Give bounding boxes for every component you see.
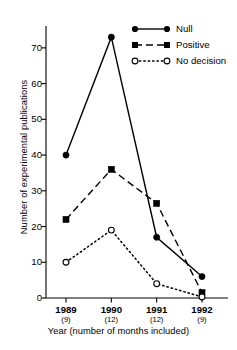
legend-label: Positive xyxy=(171,39,210,51)
legend-item-null: Null xyxy=(131,21,237,37)
legend-swatch xyxy=(131,22,171,36)
line-chart: Number of experimental publications 0102… xyxy=(0,0,237,350)
legend-swatch xyxy=(131,54,171,68)
x-tick-label-months: (9) xyxy=(174,315,230,325)
x-tick-group: 1992(9) xyxy=(174,304,230,325)
legend-item-no-decision: No decision xyxy=(131,53,237,69)
x-tick-label-year: 1992 xyxy=(174,304,230,315)
legend-item-positive: Positive xyxy=(131,37,237,53)
legend-label: No decision xyxy=(171,55,226,67)
x-axis-title: Year (number of months included) xyxy=(0,326,237,336)
legend-swatch xyxy=(131,38,171,52)
legend-label: Null xyxy=(171,23,193,35)
chart-legend: NullPositiveNo decision xyxy=(131,21,237,69)
